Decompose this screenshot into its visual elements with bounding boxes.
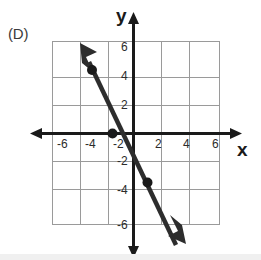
x-tick-label-2: 2 xyxy=(155,137,162,151)
y-tick-label-neg2: -2 xyxy=(117,154,128,168)
y-tick-label-neg4: -4 xyxy=(117,183,128,197)
x-tick-label-neg4: -4 xyxy=(85,137,96,151)
x-axis-label: x xyxy=(237,139,248,161)
y-tick-label-6: 6 xyxy=(121,40,128,54)
x-tick-label-neg6: -6 xyxy=(57,137,68,151)
x-axis-arrow-left xyxy=(30,128,42,139)
y-axis-label: y xyxy=(116,5,127,27)
x-tick-label-neg2: -2 xyxy=(113,137,124,151)
x-tick-label-6: 6 xyxy=(212,137,219,151)
y-axis-arrow-up xyxy=(128,12,139,24)
y-tick-label-2: 2 xyxy=(121,98,128,112)
graph-svg xyxy=(0,0,261,260)
point-marker xyxy=(87,65,97,75)
x-tick-label-4: 4 xyxy=(183,137,190,151)
point-marker xyxy=(143,178,153,188)
y-tick-label-neg6: -6 xyxy=(117,218,128,232)
y-tick-label-4: 4 xyxy=(121,69,128,83)
coordinate-plane-figure: (D) xyxy=(0,0,261,260)
x-axis-arrow-right xyxy=(230,128,242,139)
bottom-edge-band xyxy=(0,254,261,260)
